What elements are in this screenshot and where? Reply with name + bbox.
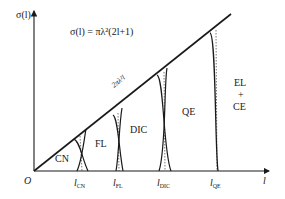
- boundary-dic: [157, 68, 171, 171]
- cross-section-diagram: σ(l) O l σ(l) = πλ²(2l+1) 2πλ²l CN FL DI…: [0, 0, 285, 199]
- boundary-qe: [210, 30, 218, 171]
- region-el: EL: [234, 77, 246, 88]
- tick-l-qe: lQE: [210, 177, 221, 189]
- origin-label: O: [24, 175, 31, 186]
- envelope-line: [34, 14, 231, 171]
- tick-l-cn: lCN: [74, 177, 86, 189]
- y-axis-label: σ(l): [16, 9, 31, 21]
- region-cn: CN: [55, 153, 69, 164]
- line-label: 2πλ²l: [110, 73, 127, 89]
- boundary-cn: [74, 129, 88, 171]
- tick-l-fl: lFL: [113, 177, 123, 189]
- boundary-fl: [113, 108, 123, 171]
- region-fl: FL: [95, 138, 107, 149]
- region-ce: CE: [233, 101, 246, 112]
- x-axis-label: l: [263, 175, 266, 186]
- formula: σ(l) = πλ²(2l+1): [70, 26, 133, 38]
- tick-l-dic: lDIC: [157, 177, 170, 189]
- region-qe: QE: [182, 106, 195, 117]
- region-plus: +: [238, 89, 244, 100]
- region-dic: DIC: [130, 124, 148, 135]
